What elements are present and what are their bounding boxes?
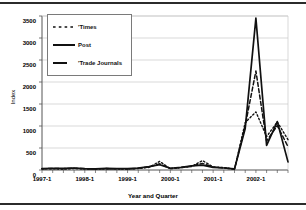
legend-item-times: 'Times <box>53 21 97 33</box>
x-axis-title: Year and Quarter <box>0 192 306 199</box>
y-axis-title: Index <box>10 77 16 117</box>
y-axis-tick-label: 500 <box>10 150 36 156</box>
y-axis-tick-label: 3000 <box>10 40 36 46</box>
x-axis-tick-label: 1997-1 <box>22 176 62 182</box>
y-axis-tick-label: 2500 <box>10 62 36 68</box>
x-axis-tick-label: 1998-1 <box>65 176 105 182</box>
legend-item-post: Post <box>53 39 91 51</box>
figure-bottom-rule <box>0 203 306 205</box>
figure-container: 0500100015002000250030003500 1997-11998-… <box>0 0 306 210</box>
chart-plot-svg <box>0 6 306 202</box>
y-axis-tick-label: 3500 <box>10 18 36 24</box>
series-line-times <box>42 112 288 169</box>
legend-swatch-post <box>53 41 75 49</box>
legend-item-trade-journals: 'Trade Journals <box>53 57 122 69</box>
chart-legend: 'Times Post 'Trade Journals <box>47 14 132 76</box>
y-axis-tick-label: 1000 <box>10 128 36 134</box>
series-line-trade-journals <box>42 71 288 169</box>
legend-swatch-trade-journals <box>53 59 75 67</box>
legend-label-times: 'Times <box>78 24 97 30</box>
x-axis-tick-label: 2002-1 <box>236 176 276 182</box>
figure-top-rule <box>0 2 306 4</box>
x-axis-tick-label: 2001-1 <box>193 176 233 182</box>
x-axis-tick-label: 2000-1 <box>150 176 190 182</box>
legend-swatch-times <box>53 23 75 31</box>
legend-label-trade-journals: 'Trade Journals <box>78 60 122 66</box>
line-chart: 0500100015002000250030003500 1997-11998-… <box>0 6 306 202</box>
x-axis-tick-label: 1999-1 <box>108 176 148 182</box>
legend-label-post: Post <box>78 42 91 48</box>
